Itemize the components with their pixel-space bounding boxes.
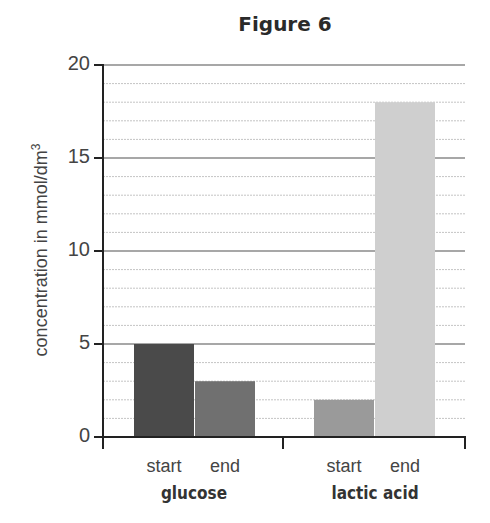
bar-lactic-acid-start	[314, 400, 374, 437]
y-tick-label-15: 15	[50, 145, 90, 168]
y-tick-label-5: 5	[50, 331, 90, 354]
bar-glucose-end	[195, 381, 255, 437]
bar-lactic-acid-end	[375, 102, 435, 437]
group-label-glucose: glucose	[143, 482, 245, 503]
y-tick-label-10: 10	[50, 238, 90, 261]
y-tick-label-20: 20	[50, 52, 90, 75]
x-label-lactic-end: end	[380, 456, 430, 477]
x-label-lactic-start: start	[314, 456, 374, 477]
x-label-glucose-end: end	[200, 456, 250, 477]
x-label-glucose-start: start	[134, 456, 194, 477]
y-tick-label-0: 0	[50, 424, 90, 447]
group-label-lactic-acid: lactic acid	[316, 482, 435, 503]
bar-glucose-start	[134, 344, 194, 437]
